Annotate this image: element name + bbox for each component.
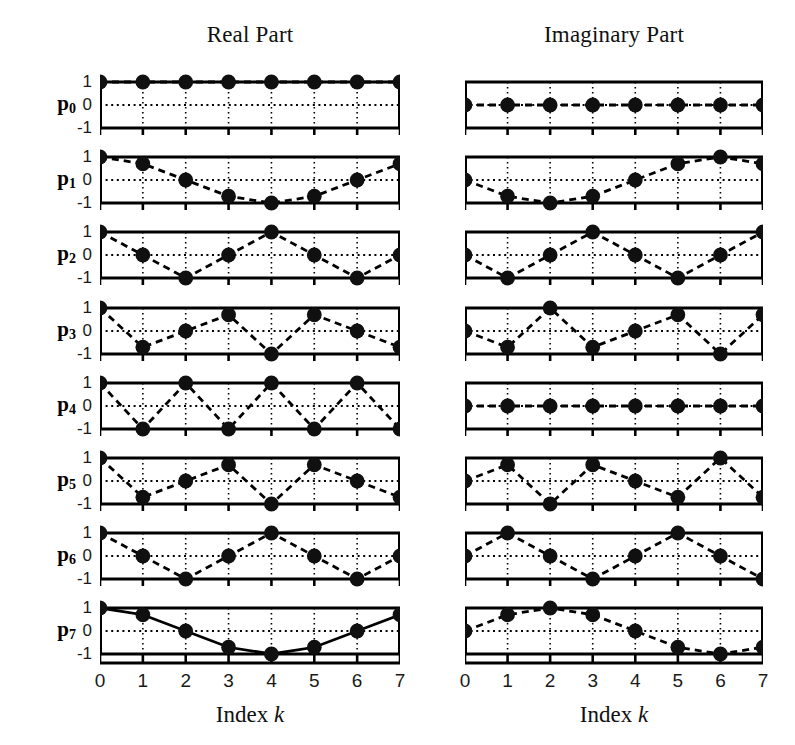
plot-panel-p0-imag	[465, 68, 763, 142]
data-point-marker	[670, 98, 685, 113]
data-point-marker	[713, 647, 728, 662]
data-point-marker	[500, 339, 515, 354]
y-tick-label: 1	[62, 524, 92, 541]
data-point-marker	[543, 601, 558, 616]
data-point-marker	[543, 98, 558, 113]
data-point-marker	[100, 300, 107, 315]
y-tick-label: 0	[62, 322, 92, 339]
x-axis-title-variable: k	[638, 702, 648, 727]
y-tick-label: 0	[62, 246, 92, 263]
data-point-marker	[500, 189, 515, 204]
data-point-marker	[670, 490, 685, 505]
data-point-marker	[393, 549, 400, 564]
data-point-marker	[670, 398, 685, 413]
x-axis-title-real: Index k	[100, 702, 400, 728]
plot-panel-p4-real	[100, 369, 400, 443]
data-point-marker	[670, 157, 685, 172]
y-tick-label: 1	[62, 599, 92, 616]
data-point-marker	[100, 451, 107, 466]
data-point-marker	[393, 339, 400, 354]
x-tick-label: 2	[539, 670, 561, 692]
data-point-marker	[628, 549, 643, 564]
data-point-marker	[585, 398, 600, 413]
data-point-marker	[393, 75, 400, 90]
x-tick-label: 5	[303, 670, 325, 692]
data-point-marker	[221, 75, 236, 90]
data-point-marker	[628, 248, 643, 263]
data-point-marker	[465, 323, 472, 338]
data-point-marker	[264, 225, 279, 240]
data-point-marker	[585, 608, 600, 623]
y-tick-label: 1	[62, 148, 92, 165]
data-point-marker	[221, 640, 236, 655]
data-point-marker	[585, 189, 600, 204]
plot-panel-p6-imag	[465, 519, 763, 593]
y-tick-label: 1	[62, 449, 92, 466]
data-point-marker	[135, 248, 150, 263]
data-point-marker	[135, 421, 150, 436]
data-point-marker	[135, 339, 150, 354]
data-point-marker	[264, 647, 279, 662]
y-tick-label: 1	[62, 374, 92, 391]
y-tick-label: 1	[62, 73, 92, 90]
y-tick-label: -1	[62, 570, 92, 587]
data-point-marker	[221, 421, 236, 436]
data-point-marker	[100, 150, 107, 165]
data-point-marker	[756, 398, 763, 413]
data-point-marker	[585, 457, 600, 472]
column-title-real: Real Part	[100, 22, 400, 48]
data-point-marker	[585, 572, 600, 587]
data-point-marker	[670, 526, 685, 541]
y-tick-label: -1	[62, 345, 92, 362]
x-tick-label: 4	[260, 670, 282, 692]
x-tick-label: 5	[667, 670, 689, 692]
x-tick-label: 2	[175, 670, 197, 692]
data-point-marker	[393, 157, 400, 172]
data-point-marker	[500, 98, 515, 113]
y-tick-label: 0	[62, 96, 92, 113]
data-point-marker	[135, 157, 150, 172]
data-point-marker	[670, 307, 685, 322]
data-point-marker	[465, 98, 472, 113]
data-point-marker	[264, 196, 279, 211]
data-point-marker	[713, 248, 728, 263]
plot-panel-p2-imag	[465, 218, 763, 292]
y-tick-label: 1	[62, 299, 92, 316]
data-point-marker	[100, 75, 107, 90]
y-tick-label: 0	[62, 397, 92, 414]
data-point-marker	[264, 346, 279, 361]
data-point-marker	[713, 98, 728, 113]
y-tick-label: -1	[62, 420, 92, 437]
x-tick-label: 3	[218, 670, 240, 692]
plot-panel-p3-real	[100, 294, 400, 368]
data-point-marker	[178, 271, 193, 286]
data-point-marker	[756, 225, 763, 240]
data-point-marker	[543, 300, 558, 315]
data-point-marker	[465, 474, 472, 489]
data-point-marker	[221, 457, 236, 472]
data-point-marker	[500, 457, 515, 472]
data-point-marker	[178, 75, 193, 90]
data-point-marker	[756, 157, 763, 172]
data-point-marker	[543, 497, 558, 512]
y-tick-label: -1	[62, 495, 92, 512]
y-tick-label: 1	[62, 223, 92, 240]
data-point-marker	[713, 451, 728, 466]
column-title-imaginary: Imaginary Part	[465, 22, 763, 48]
x-tick-label: 4	[624, 670, 646, 692]
data-point-marker	[670, 640, 685, 655]
data-point-marker	[350, 375, 365, 390]
data-point-marker	[713, 398, 728, 413]
data-point-marker	[350, 173, 365, 188]
data-point-marker	[100, 375, 107, 390]
plot-panel-p7-imag	[465, 594, 763, 678]
data-point-marker	[307, 457, 322, 472]
data-point-marker	[178, 173, 193, 188]
x-tick-label: 3	[582, 670, 604, 692]
data-point-marker	[628, 474, 643, 489]
data-point-marker	[307, 421, 322, 436]
plot-panel-p0-real	[100, 68, 400, 142]
data-point-marker	[585, 225, 600, 240]
data-point-marker	[221, 307, 236, 322]
data-point-marker	[756, 98, 763, 113]
